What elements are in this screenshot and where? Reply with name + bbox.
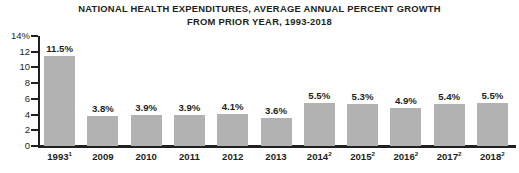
- y-axis-tick-0: [31, 145, 38, 147]
- bar-2013[interactable]: [261, 118, 292, 146]
- footnote-marker: 2: [501, 150, 504, 157]
- footnote-marker: 2: [371, 150, 374, 157]
- y-axis-tick-10: [31, 66, 38, 68]
- footnote-marker: 2: [415, 150, 418, 157]
- bar-2018[interactable]: [477, 103, 508, 146]
- footnote-marker: 2: [458, 150, 461, 157]
- y-axis-tick-2: [31, 129, 38, 131]
- bar-2011[interactable]: [174, 115, 205, 146]
- bar-2016[interactable]: [390, 108, 421, 147]
- y-axis-tick-label: 4: [0, 110, 30, 120]
- bar-value-label: 3.6%: [246, 106, 306, 116]
- y-axis-tick-label: 10: [0, 62, 30, 72]
- y-axis-tick-6: [31, 98, 38, 100]
- y-axis-tick-label: 12: [0, 47, 30, 57]
- y-axis-tick-14: [31, 35, 38, 37]
- x-axis-category-label: 20182: [462, 151, 519, 162]
- y-axis-tick-8: [31, 82, 38, 84]
- y-axis-tick-label: 6: [0, 94, 30, 104]
- bar-2017[interactable]: [434, 104, 465, 146]
- bar-2015[interactable]: [347, 104, 378, 146]
- bar-2009[interactable]: [87, 116, 118, 146]
- bar-2010[interactable]: [131, 115, 162, 146]
- bar-1993[interactable]: [44, 56, 75, 146]
- bar-2014[interactable]: [304, 103, 335, 146]
- bar-value-label: 5.5%: [462, 91, 519, 101]
- y-axis-tick-4: [31, 114, 38, 116]
- y-axis-tick-label: 0: [0, 141, 30, 151]
- footnote-marker: 1: [69, 150, 72, 157]
- y-axis-tick-label: 2: [0, 125, 30, 135]
- bar-value-label: 11.5%: [30, 44, 90, 54]
- y-axis-tick-label: 14%: [0, 31, 30, 41]
- footnote-marker: 2: [328, 150, 331, 157]
- bar-2012[interactable]: [217, 114, 248, 146]
- y-axis-tick-label: 8: [0, 78, 30, 88]
- bar-chart-plot-area: 02468101214% 11.5%199313.8%20093.9%20103…: [0, 0, 519, 173]
